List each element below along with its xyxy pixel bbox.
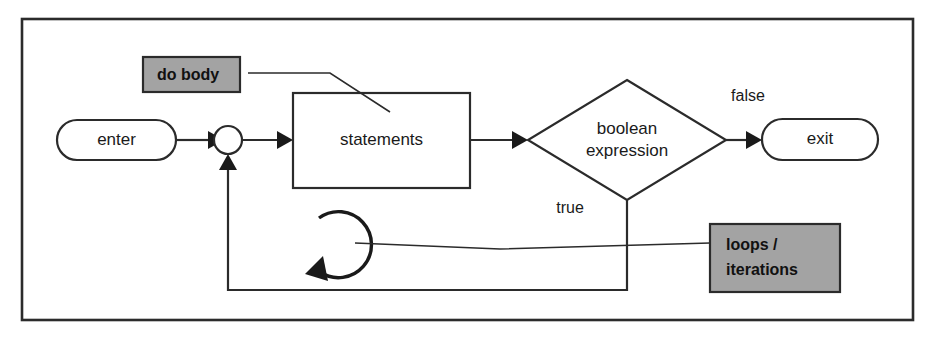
- annotation-box-loops-iterations: [710, 224, 840, 292]
- node-decision-label-line1: boolean: [597, 119, 658, 138]
- edge-label-true: true: [556, 199, 584, 216]
- node-decision[interactable]: [528, 80, 726, 200]
- edge-label-false: false: [731, 87, 765, 104]
- arrowhead-junction-to-statements: [277, 131, 293, 149]
- arrowhead-loopback-to-junction: [219, 154, 237, 170]
- arrowhead-decision-to-exit: [746, 131, 762, 149]
- annotation-label-loops-line1: loops /: [726, 236, 778, 253]
- node-statements-label: statements: [340, 130, 423, 149]
- arrowhead-statements-to-decision: [512, 131, 528, 149]
- leader-line-loops-iterations: [355, 243, 710, 249]
- circular-loop-arrowhead-icon: [305, 256, 328, 281]
- node-junction[interactable]: [214, 126, 242, 154]
- node-decision-label-line2: expression: [586, 141, 668, 160]
- annotation-label-loops-line2: iterations: [726, 261, 798, 278]
- node-exit-label: exit: [807, 129, 834, 148]
- node-enter-label: enter: [97, 130, 136, 149]
- circular-loop-arrow-icon: [319, 212, 371, 278]
- diagram-canvas: enter statements boolean expression exit…: [0, 0, 933, 339]
- flowchart-svg: enter statements boolean expression exit…: [0, 0, 933, 339]
- annotation-label-do-body: do body: [157, 66, 219, 83]
